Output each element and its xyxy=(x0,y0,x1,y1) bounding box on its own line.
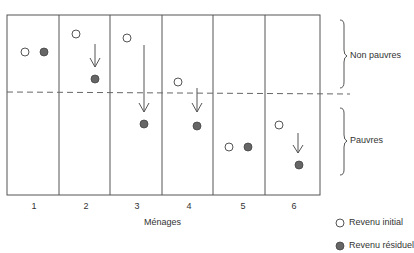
brace-poor xyxy=(340,108,347,175)
chart-frame xyxy=(7,15,320,195)
tick-household-4: 4 xyxy=(179,201,199,211)
column-dividers xyxy=(59,15,265,195)
legend-residual-label: Revenu résiduel xyxy=(349,240,414,250)
group-label-non-poor: Non pauvres xyxy=(350,50,401,60)
group-label-poor: Pauvres xyxy=(350,135,383,145)
x-axis-label: Ménages xyxy=(144,217,181,227)
arrow-household-6 xyxy=(293,133,303,153)
tick-household-3: 3 xyxy=(127,201,147,211)
tick-household-1: 1 xyxy=(24,201,44,211)
brace-non-poor xyxy=(340,20,347,88)
arrow-household-2 xyxy=(90,44,100,67)
legend-initial-icon xyxy=(336,219,344,227)
tick-household-2: 2 xyxy=(76,201,96,211)
arrow-household-4 xyxy=(192,88,202,112)
legend-residual-icon xyxy=(336,242,344,250)
initial-income-points xyxy=(21,30,283,151)
poverty-line xyxy=(7,92,350,94)
tick-household-6: 6 xyxy=(284,201,304,211)
arrows xyxy=(90,44,303,153)
legend-initial-label: Revenu initial xyxy=(349,217,403,227)
tick-household-5: 5 xyxy=(233,201,253,211)
arrow-household-3 xyxy=(139,45,149,112)
residual-income-points xyxy=(40,48,303,169)
